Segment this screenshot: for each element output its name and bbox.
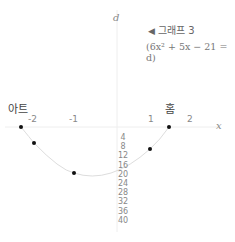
y-tick: 24 bbox=[116, 179, 130, 188]
y-tick: 36 bbox=[116, 207, 130, 216]
y-ticks: 4 8 12 16 20 24 28 32 36 40 bbox=[116, 133, 130, 225]
parabola-curve bbox=[21, 127, 169, 176]
x-tick: 2 bbox=[187, 114, 193, 124]
back-arrow-icon[interactable]: ◀ bbox=[148, 26, 155, 36]
y-tick: 32 bbox=[116, 197, 130, 206]
y-tick: 28 bbox=[116, 188, 130, 197]
data-point bbox=[72, 171, 76, 175]
x-tick: -2 bbox=[28, 114, 37, 124]
y-tick: 8 bbox=[116, 142, 130, 151]
x-tick: -1 bbox=[69, 114, 78, 124]
data-point bbox=[148, 147, 152, 151]
x-axis-label: x bbox=[216, 120, 222, 131]
x-tick: 1 bbox=[148, 114, 154, 124]
data-point bbox=[32, 141, 36, 145]
y-tick: 20 bbox=[116, 170, 130, 179]
left-label: 아트 bbox=[8, 100, 28, 116]
y-tick: 12 bbox=[116, 151, 130, 160]
y-tick: 40 bbox=[116, 216, 130, 225]
right-label: 홈 bbox=[165, 100, 175, 116]
data-point bbox=[167, 125, 171, 129]
equation: (6x² + 5x − 21 = d) bbox=[146, 41, 235, 63]
data-point bbox=[19, 125, 23, 129]
y-axis-label: d bbox=[113, 12, 119, 23]
title-text: 그래프 3 bbox=[158, 25, 195, 36]
y-tick: 4 bbox=[116, 133, 130, 142]
y-tick: 16 bbox=[116, 161, 130, 170]
graph-title: ◀ 그래프 3 bbox=[148, 22, 195, 37]
